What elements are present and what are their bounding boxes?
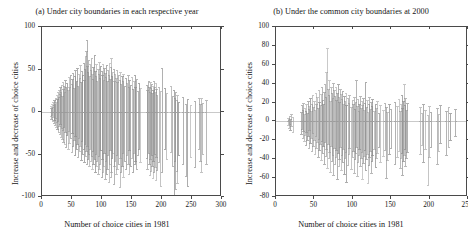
y-tick: [38, 196, 41, 197]
x-tick: [191, 196, 192, 199]
data-marker: [205, 100, 208, 165]
y-tick: [272, 120, 275, 121]
data-marker: [406, 103, 409, 153]
y-tick: [272, 45, 275, 46]
x-tick-label: 200: [156, 201, 167, 209]
x-tick-label: 100: [96, 201, 107, 209]
x-tick-top: [429, 26, 430, 29]
data-marker: [291, 117, 294, 133]
x-tick-label: 0: [273, 201, 277, 209]
x-tick: [313, 196, 314, 199]
y-tick-right: [221, 196, 224, 197]
y-tick: [272, 83, 275, 84]
x-tick-label: 250: [186, 201, 197, 209]
x-tick: [429, 196, 430, 199]
panel-b-y-axis-label: Increase and decrease of choice cities: [245, 62, 254, 185]
x-tick: [352, 196, 353, 199]
data-marker: [177, 102, 180, 156]
x-tick-top: [275, 26, 276, 29]
y-tick-right: [221, 26, 224, 27]
x-tick-top: [161, 26, 162, 29]
panel-a-y-axis-label: Increase and decrease of choice cities: [11, 62, 20, 185]
y-tick: [272, 177, 275, 178]
x-tick-label: 150: [385, 201, 396, 209]
x-tick: [390, 196, 391, 199]
x-tick-label: 150: [126, 201, 137, 209]
y-tick: [272, 64, 275, 65]
panel-a: (a) Under city boundaries in each respec…: [0, 0, 234, 236]
x-tick-top: [71, 26, 72, 29]
y-tick-right: [221, 69, 224, 70]
y-tick: [272, 196, 275, 197]
x-tick: [275, 196, 276, 199]
data-marker: [165, 93, 168, 159]
y-tick-label: 80: [234, 41, 269, 49]
x-tick-top: [41, 26, 42, 29]
panel-b-x-axis-label: Number of choice cities in 1981: [234, 220, 468, 229]
x-tick-label: 50: [67, 201, 74, 209]
panel-b-title: (b) Under the common city boundaries at …: [234, 7, 468, 17]
x-tick: [101, 196, 102, 199]
y-tick-label: -80: [234, 192, 269, 200]
data-marker: [139, 88, 142, 163]
data-marker: [449, 113, 452, 140]
x-tick: [131, 196, 132, 199]
x-tick-top: [313, 26, 314, 29]
x-tick: [161, 196, 162, 199]
data-marker: [194, 101, 197, 168]
y-tick-label: 100: [234, 22, 269, 30]
y-tick: [272, 102, 275, 103]
y-tick: [272, 158, 275, 159]
x-tick-label: 50: [310, 201, 317, 209]
data-marker: [454, 109, 457, 136]
y-tick-label: -100: [0, 192, 35, 200]
figure-container: (a) Under city boundaries in each respec…: [0, 0, 468, 236]
x-tick-label: 300: [216, 201, 227, 209]
y-tick: [272, 139, 275, 140]
y-tick: [38, 69, 41, 70]
x-tick-label: 250: [462, 201, 468, 209]
data-marker: [390, 109, 393, 149]
panel-a-title: (a) Under city boundaries in each respec…: [0, 7, 234, 17]
x-tick-top: [131, 26, 132, 29]
x-tick-label: 100: [346, 201, 357, 209]
x-tick: [41, 196, 42, 199]
y-tick-right: [221, 154, 224, 155]
panel-b-plot-area: [275, 26, 467, 196]
x-tick-top: [191, 26, 192, 29]
y-tick: [272, 26, 275, 27]
panel-b: (b) Under the common city boundaries at …: [234, 0, 468, 236]
y-tick-right: [221, 111, 224, 112]
data-marker: [430, 112, 433, 148]
x-tick-top: [390, 26, 391, 29]
data-marker: [201, 103, 204, 155]
y-tick-label: 100: [0, 22, 35, 30]
x-tick-label: 200: [423, 201, 434, 209]
y-tick: [38, 111, 41, 112]
data-marker: [189, 105, 192, 158]
x-tick-top: [101, 26, 102, 29]
x-tick-top: [352, 26, 353, 29]
panel-a-x-axis-label: Number of choice cities in 1981: [0, 220, 234, 229]
data-marker: [439, 105, 442, 144]
y-tick: [38, 26, 41, 27]
x-tick: [71, 196, 72, 199]
panel-a-plot-area: [41, 26, 221, 196]
x-tick-label: 0: [39, 201, 43, 209]
y-tick: [38, 154, 41, 155]
